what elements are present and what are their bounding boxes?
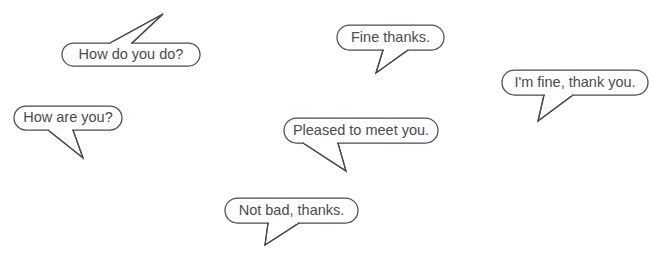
speech-bubble-how-are-you[interactable]: How are you? xyxy=(14,106,122,158)
speech-bubble-canvas: How do you do?How are you?Fine thanks.I'… xyxy=(0,0,653,255)
speech-bubble-tail-outline xyxy=(110,14,163,43)
speech-bubble-how-do-you-do[interactable]: How do you do? xyxy=(62,14,200,66)
speech-bubble-label: How are you? xyxy=(23,109,112,125)
speech-bubble-label: Fine thanks. xyxy=(351,29,430,45)
speech-bubble-not-bad-thanks[interactable]: Not bad, thanks. xyxy=(225,198,358,245)
speech-bubble-pleased-to-meet-you[interactable]: Pleased to meet you. xyxy=(284,118,438,171)
speech-bubble-label: Pleased to meet you. xyxy=(293,122,429,138)
speech-bubbles-layer: How do you do?How are you?Fine thanks.I'… xyxy=(0,0,653,255)
speech-bubble-label: Not bad, thanks. xyxy=(239,202,345,218)
speech-bubble-im-fine-thank-you[interactable]: I'm fine, thank you. xyxy=(502,70,648,121)
speech-bubble-label: How do you do? xyxy=(79,46,184,62)
speech-bubble-label: I'm fine, thank you. xyxy=(514,74,635,90)
speech-bubble-fine-thanks[interactable]: Fine thanks. xyxy=(337,25,444,73)
